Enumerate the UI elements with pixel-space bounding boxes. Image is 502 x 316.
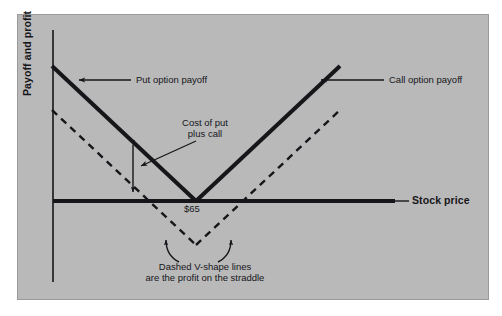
straddle-note-line-2: are the profit on the straddle	[141, 273, 269, 284]
x-axis-label: Stock price	[412, 195, 470, 207]
straddle-callout-arrow-right	[218, 240, 231, 262]
call-option-payoff-label: Call option payoff	[389, 75, 462, 86]
y-axis-label: Payoff and profit	[22, 11, 34, 96]
straddle-profit-note: Dashed V-shape lines are the profit on t…	[141, 262, 269, 283]
put-option-payoff-label: Put option payoff	[136, 75, 207, 86]
cost-label-leader-line	[141, 141, 196, 166]
cost-label-line-2: plus call	[168, 129, 242, 140]
straddle-callout-arrow-left	[166, 240, 179, 262]
cost-of-put-plus-call-label: Cost of put plus call	[168, 118, 242, 139]
strike-price-label: $65	[184, 204, 200, 215]
straddle-payoff-figure: Payoff and profit Stock price Put option…	[0, 0, 502, 316]
